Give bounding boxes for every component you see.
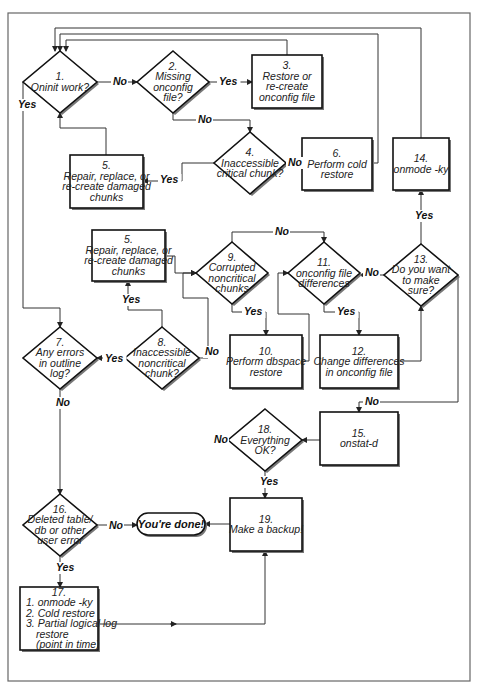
edge-label-no: No <box>113 75 128 87</box>
node-text-line: chunk? <box>145 367 179 379</box>
node-text-line: chunks <box>90 191 124 203</box>
node-n11: 11.onconfig filedifferences <box>288 242 362 306</box>
edge-label-no: No <box>198 113 213 125</box>
edge-label-yes: Yes <box>244 305 262 317</box>
node-n18: 18.EverythingOK? <box>228 409 304 473</box>
edge-label-yes: Yes <box>260 475 278 487</box>
node-n13: 13.Do you wantto makesure? <box>384 244 460 308</box>
node-done: You're done! <box>137 513 207 537</box>
node-n9: 9.Corruptednoncriticalchunks <box>196 242 270 306</box>
edge-12-to-13 <box>398 306 421 361</box>
node-text-line: chunks <box>112 265 146 277</box>
node-text-line: file? <box>163 91 182 103</box>
node-text-line: log? <box>50 367 70 379</box>
edge-label-yes: Yes <box>18 98 36 110</box>
node-text-line: restore <box>250 366 283 378</box>
node-n7: 7.Any errorsin outlinelog? <box>23 327 99 391</box>
node-n14: 14.onmode -ky <box>393 138 451 192</box>
edge-3-to-1 <box>66 40 287 55</box>
edge-label-no: No <box>109 519 124 531</box>
node-text-line: sure? <box>408 284 434 296</box>
node-n17: 17.1. onmode -ky2. Cold restore3. Partia… <box>20 586 117 652</box>
node-n5b: 5.Repair, replace, orre-create damagedch… <box>84 230 174 283</box>
edge-17-to-19 <box>98 551 265 624</box>
node-n5a: 5.Repair, replace, orre-create damagedch… <box>62 155 152 210</box>
node-n3: 3.Restore orre-createonconfig file <box>252 55 324 110</box>
node-text-line: in onconfig file <box>325 366 392 378</box>
node-text-line: onconfig file <box>259 91 315 103</box>
node-text-line: restore <box>321 168 354 180</box>
node-n10: 10.Perform dbspacerestore <box>226 335 306 390</box>
node-text-line: differences <box>298 277 350 289</box>
node-text-line: onstat-d <box>340 437 379 449</box>
node-n8: 8.Inaccessiblenoncriticalchunk? <box>125 327 201 391</box>
edge-label-yes: Yes <box>105 352 123 364</box>
node-text-line: critical chunk? <box>217 167 284 179</box>
edge-label-no: No <box>365 266 380 278</box>
node-text-line: Oninit work? <box>31 81 90 93</box>
edge-label-no: No <box>275 225 290 237</box>
edge-label-no: No <box>365 395 380 407</box>
node-n4: 4.Inaccessiblecritical chunk? <box>214 132 288 196</box>
edge-label-yes: Yes <box>160 173 178 185</box>
edge-label-yes: Yes <box>337 305 355 317</box>
node-n12: 12.Change differencesin onconfig file <box>313 335 405 390</box>
edge-5a-to-1 <box>60 113 106 155</box>
nodes: 1.Oninit work?2.Missingonconfigfile?3.Re… <box>20 51 460 652</box>
flowchart: 1.Oninit work?2.Missingonconfigfile?3.Re… <box>0 0 478 687</box>
node-n6: 6.Perform coldrestore <box>302 138 374 192</box>
edge-label-no: No <box>56 396 71 408</box>
node-text-line: (point in time) <box>36 638 100 650</box>
edge-label-yes: Yes <box>219 75 237 87</box>
edge-1-to-7 <box>23 82 60 327</box>
edge-label-yes: Yes <box>415 209 433 221</box>
node-text-line: chunks <box>215 282 249 294</box>
node-text-line: user error <box>37 534 83 546</box>
node-n16: 16.Deleted table/db or otheruser error <box>23 494 99 558</box>
edge-label-no: No <box>288 156 303 168</box>
node-n19: 19.Make a backup! <box>229 498 304 553</box>
node-text-line: Make a backup! <box>229 523 303 535</box>
edge-label-yes: Yes <box>56 561 74 573</box>
node-text-line: OK? <box>254 444 275 456</box>
node-text-line: onmode -ky <box>394 163 450 175</box>
edge-label-no: No <box>205 345 220 357</box>
edge-label-yes: Yes <box>122 293 140 305</box>
node-n15: 15.onstat-d <box>320 412 400 467</box>
node-text-line: You're done! <box>138 518 205 530</box>
edge-label-no: No <box>214 433 229 445</box>
node-n2: 2.Missingonconfigfile? <box>137 51 211 115</box>
